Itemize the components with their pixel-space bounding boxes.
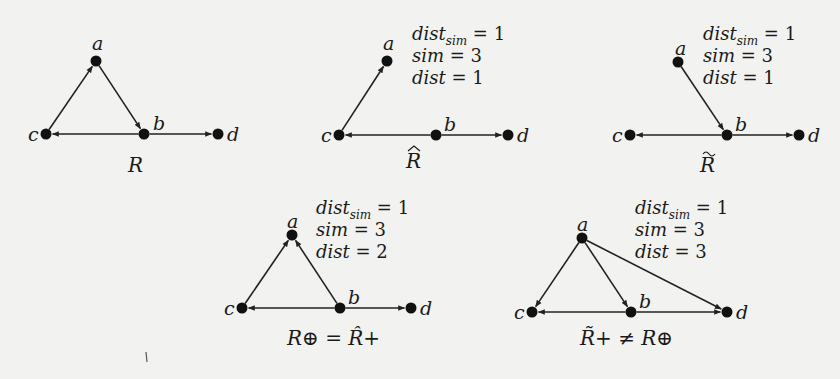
node-d xyxy=(794,130,805,141)
node-label-d: d xyxy=(420,297,432,319)
caption-R: R xyxy=(127,153,143,177)
node-label-d: d xyxy=(808,124,820,146)
stat-dist: dist = 1 xyxy=(703,67,775,88)
node-b xyxy=(335,303,346,314)
node-label-d: d xyxy=(227,123,239,145)
graph-R-tilde-plus: abcddistsim = 1sim = 3dist = 3R̃+ ≠ R⊕ xyxy=(514,197,748,350)
node-b xyxy=(722,130,733,141)
stat-dist: dist = 2 xyxy=(316,241,388,262)
stat-sim: sim = 3 xyxy=(412,45,482,66)
node-c xyxy=(527,307,538,318)
node-label-c: c xyxy=(612,124,623,146)
graph-R: abcdR xyxy=(28,32,239,177)
stat-sim: sim = 3 xyxy=(316,219,386,240)
node-d xyxy=(722,307,733,318)
node-c xyxy=(41,129,52,140)
node-label-b: b xyxy=(444,113,456,135)
node-label-c: c xyxy=(28,123,39,145)
edge-c-to-a xyxy=(49,66,92,129)
node-d xyxy=(503,130,514,141)
node-b xyxy=(139,129,150,140)
node-label-a: a xyxy=(675,37,686,59)
node-label-b: b xyxy=(348,286,360,308)
caption-R-tilde-plus: R̃+ ≠ R⊕ xyxy=(579,326,673,350)
scan-artifact-mark xyxy=(146,352,147,362)
caption-R-oplus: R⊕ = R̂+ xyxy=(286,326,380,350)
edge-c-to-a xyxy=(245,240,288,303)
node-b xyxy=(626,307,637,318)
stat-sim: sim = 3 xyxy=(635,219,705,240)
node-label-a: a xyxy=(92,32,103,54)
stat-dist: dist = 1 xyxy=(412,67,484,88)
node-label-c: c xyxy=(321,124,332,146)
node-label-c: c xyxy=(514,301,525,323)
stat-sim: sim = 3 xyxy=(703,45,773,66)
node-label-d: d xyxy=(736,301,748,323)
node-a xyxy=(382,56,393,67)
node-a xyxy=(91,56,102,67)
graphs-layer: abcdRabcddistsim = 1sim = 3dist = 1Rabcd… xyxy=(28,23,820,350)
node-label-c: c xyxy=(224,297,235,319)
graph-diagram: abcdRabcddistsim = 1sim = 3dist = 1Rabcd… xyxy=(0,0,840,379)
node-label-b: b xyxy=(735,113,747,135)
node-label-b: b xyxy=(639,290,651,312)
graph-R-oplus: abcddistsim = 1sim = 3dist = 2R⊕ = R̂+ xyxy=(224,197,432,350)
node-d xyxy=(213,129,224,140)
edge-a-to-b xyxy=(99,66,140,129)
edge-a-to-c xyxy=(536,243,579,307)
node-label-a: a xyxy=(287,210,298,232)
node-label-d: d xyxy=(517,124,529,146)
node-label-a: a xyxy=(383,32,394,54)
node-c xyxy=(625,130,636,141)
node-c xyxy=(334,130,345,141)
node-c xyxy=(237,303,248,314)
node-label-a: a xyxy=(577,213,588,235)
node-label-b: b xyxy=(153,112,165,134)
caption-R-tilde: R xyxy=(699,153,715,177)
graph-R-hat: abcddistsim = 1sim = 3dist = 1R xyxy=(321,23,529,173)
edge-a-to-b xyxy=(585,243,627,307)
graph-R-tilde: abcddistsim = 1sim = 3dist = 1R xyxy=(612,23,820,177)
node-d xyxy=(406,303,417,314)
stat-dist: dist = 3 xyxy=(635,241,707,262)
node-b xyxy=(431,130,442,141)
caption-R-hat: R xyxy=(405,149,421,173)
edge-c-to-a xyxy=(342,66,383,130)
